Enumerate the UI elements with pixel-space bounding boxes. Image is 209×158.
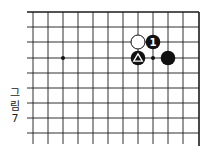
- point-marker-dot: [151, 56, 155, 60]
- caption-number: 7: [12, 113, 19, 126]
- black-stone: [161, 51, 176, 66]
- figure-caption: 그 림 7: [9, 88, 21, 126]
- star-point: [61, 56, 65, 60]
- go-board: 1: [0, 0, 209, 158]
- caption-char-1: 그: [10, 88, 20, 101]
- stone-move-number: 1: [150, 37, 157, 48]
- white-stone: [131, 35, 145, 49]
